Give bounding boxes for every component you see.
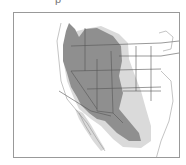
map-caption: p: [55, 0, 61, 5]
map-svg: [14, 13, 180, 158]
range-map: [13, 12, 180, 158]
